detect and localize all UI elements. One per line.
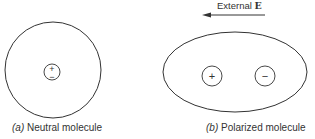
- field-arrow-head: [202, 13, 211, 18]
- field-symbol: E: [255, 0, 262, 11]
- field-label-text: External: [217, 0, 252, 11]
- diagram-canvas: + − + −: [0, 0, 315, 139]
- negative-charge-sign: −: [262, 70, 268, 82]
- caption-b: (b) Polarized molecule: [206, 122, 306, 133]
- caption-b-text: Polarized molecule: [221, 122, 306, 133]
- caption-a-text: Neutral molecule: [27, 122, 102, 133]
- caption-a: (a) Neutral molecule: [12, 122, 102, 133]
- neutral-minus-sign: −: [49, 72, 54, 82]
- external-field-label: External E: [217, 0, 262, 11]
- polarized-molecule-cloud: [163, 32, 307, 112]
- positive-charge-sign: +: [209, 70, 215, 82]
- caption-a-tag: (a): [12, 122, 24, 133]
- caption-b-tag: (b): [206, 122, 218, 133]
